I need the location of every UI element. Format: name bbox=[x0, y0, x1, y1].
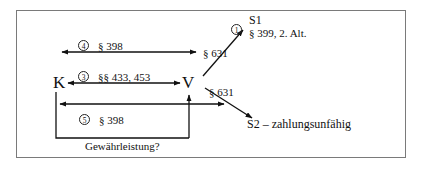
label-step5-norm: § 398 bbox=[99, 114, 124, 126]
node-k: K bbox=[53, 74, 65, 91]
step1-marker-group: 1 bbox=[231, 21, 242, 37]
node-s1: S1 bbox=[249, 14, 262, 26]
circled-number-3: 3 bbox=[78, 71, 89, 82]
circled-number-4: 4 bbox=[78, 40, 89, 51]
circled-number-1: 1 bbox=[231, 24, 242, 35]
label-s1-norm: § 399, 2. Alt. bbox=[249, 28, 306, 39]
step3-label-group: 3 §§ 433, 453 bbox=[78, 68, 150, 84]
step4-label-group: 4 § 398 bbox=[78, 37, 123, 53]
label-v-s1-norm: § 631 bbox=[203, 48, 228, 59]
label-step4-norm: § 398 bbox=[98, 40, 123, 52]
node-s2: S2 – zahlungsunfähig bbox=[247, 118, 351, 130]
label-v-s2-norm: § 631 bbox=[209, 87, 234, 98]
circled-number-5: 5 bbox=[79, 114, 90, 125]
diagram-figure: K V S1 S2 – zahlungsunfähig 1 4 § 398 3 … bbox=[0, 0, 424, 170]
node-v: V bbox=[182, 74, 194, 91]
label-step3-norm: §§ 433, 453 bbox=[98, 71, 150, 83]
step5-label-group: 5 § 398 bbox=[79, 111, 124, 127]
label-guarantee-question: Gewährleistung? bbox=[85, 141, 160, 152]
